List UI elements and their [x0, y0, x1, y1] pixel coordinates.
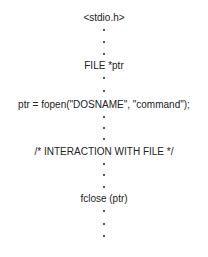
ellipsis-dot-icon: [103, 127, 105, 129]
ellipsis-dot-icon: [103, 210, 105, 212]
fclose-statement: fclose (ptr): [0, 193, 208, 205]
ellipsis-dot-icon: [103, 77, 105, 79]
ellipsis-dot-icon: [103, 186, 105, 188]
ellipsis-dot-icon: [103, 41, 105, 43]
file-io-diagram: <stdio.h> FILE *ptr ptr = fopen("DOSNAME…: [0, 0, 208, 257]
file-pointer-declaration: FILE *ptr: [0, 60, 208, 72]
ellipsis-dot-icon: [103, 174, 105, 176]
interaction-comment: /* INTERACTION WITH FILE */: [0, 146, 208, 158]
ellipsis-dot-icon: [103, 223, 105, 225]
ellipsis-dot-icon: [103, 235, 105, 237]
ellipsis-dot-icon: [103, 90, 105, 92]
ellipsis-dot-icon: [103, 116, 105, 118]
ellipsis-dot-icon: [103, 29, 105, 31]
ellipsis-dot-icon: [103, 163, 105, 165]
fopen-statement: ptr = fopen("DOSNAME", "command");: [0, 99, 208, 111]
include-stdio-line: <stdio.h>: [0, 12, 208, 24]
ellipsis-dot-icon: [103, 138, 105, 140]
ellipsis-dot-icon: [103, 53, 105, 55]
